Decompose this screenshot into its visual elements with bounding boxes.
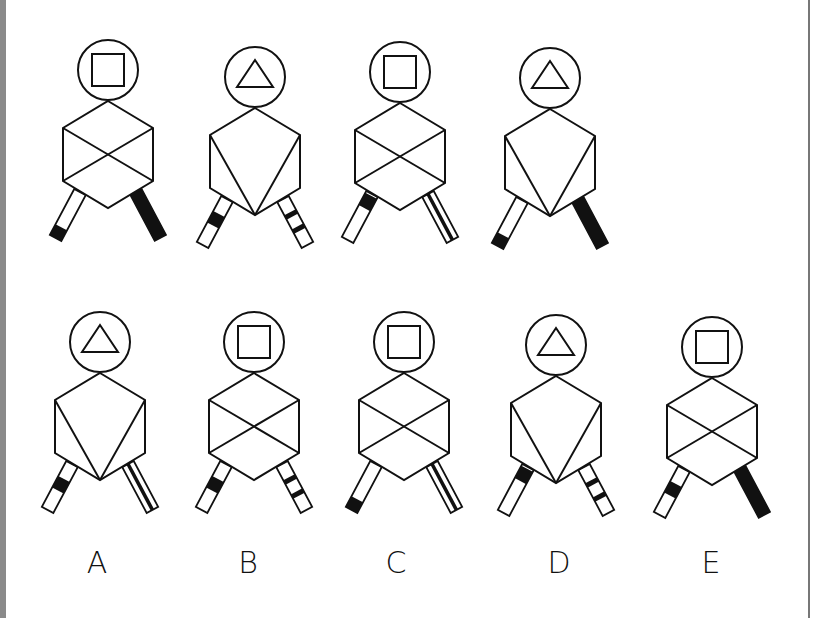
left-leg <box>654 466 690 518</box>
right-leg <box>426 461 462 513</box>
head-circle <box>224 312 284 372</box>
right-leg <box>130 189 166 241</box>
sequence-figure-2 <box>197 47 313 248</box>
sequence-figure-1 <box>50 40 166 241</box>
left-leg <box>342 191 378 243</box>
sequence-figure-3 <box>342 42 458 243</box>
option-figure-e[interactable] <box>654 317 770 518</box>
option-figure-d[interactable] <box>498 315 614 516</box>
option-figure-c[interactable] <box>346 312 462 513</box>
option-label-b[interactable]: B <box>238 545 258 580</box>
head-circle <box>225 47 285 107</box>
option-figure-a[interactable] <box>42 312 158 513</box>
leg-center-line <box>430 463 458 511</box>
head-circle <box>374 312 434 372</box>
leg-outline <box>277 196 313 248</box>
head-circle <box>78 40 138 100</box>
head-circle <box>70 312 130 372</box>
option-figures <box>42 312 770 518</box>
head-circle <box>520 48 580 108</box>
head-circle <box>526 315 586 375</box>
leg-center-line <box>126 463 154 511</box>
leg-center-line <box>426 193 454 241</box>
option-label-a[interactable]: A <box>87 545 108 580</box>
leg-solid <box>130 189 166 241</box>
left-leg <box>492 197 528 249</box>
leg-solid <box>572 197 608 249</box>
sequence-figure-4 <box>492 48 608 249</box>
leg-outline <box>276 461 312 513</box>
left-leg <box>42 461 78 513</box>
right-leg <box>572 197 608 249</box>
option-label-d[interactable]: D <box>547 545 570 580</box>
option-label-c[interactable]: C <box>386 545 407 580</box>
head-circle <box>682 317 742 377</box>
option-figure-b[interactable] <box>196 312 312 513</box>
right-leg <box>734 466 770 518</box>
right-leg <box>277 196 313 248</box>
option-label-e[interactable]: E <box>702 545 721 580</box>
right-leg <box>122 461 158 513</box>
left-leg <box>196 461 232 513</box>
left-leg <box>346 461 382 513</box>
sequence-figures <box>50 40 608 249</box>
right-leg <box>276 461 312 513</box>
right-leg <box>422 191 458 243</box>
left-leg <box>498 464 534 516</box>
head-circle <box>370 42 430 102</box>
left-leg <box>50 189 86 241</box>
leg-outline <box>578 464 614 516</box>
right-leg <box>578 464 614 516</box>
left-leg <box>197 196 233 248</box>
leg-solid <box>734 466 770 518</box>
puzzle-canvas <box>0 0 815 618</box>
